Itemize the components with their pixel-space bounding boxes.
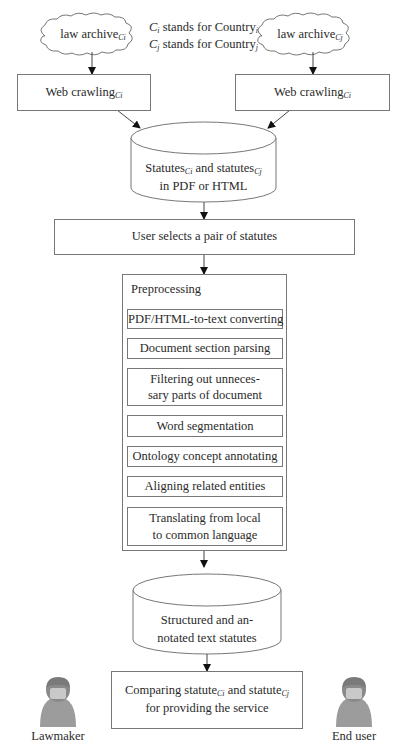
- step-pdf-html-to-text: PDF/HTML-to-text converting: [127, 309, 283, 329]
- step-label: Word segmentation: [128, 418, 282, 435]
- web-crawling-left-label: Web crawlingCi: [18, 84, 150, 104]
- end-user-label: End user: [324, 729, 384, 744]
- arrow-crawler-left: [117, 110, 140, 128]
- end-user-person-icon: [336, 677, 372, 727]
- step-label-line2: to common language: [128, 527, 282, 544]
- step-label: Aligning related entities: [128, 478, 282, 495]
- preprocessing-title: Preprocessing: [131, 281, 201, 298]
- step-label-line1: Translating from local: [128, 510, 282, 527]
- web-crawling-right-label: Web crawlingCi: [236, 84, 389, 104]
- compare-line2: for providing the service: [112, 700, 302, 717]
- user-selects-label: User selects a pair of statutes: [55, 228, 354, 245]
- step-label: PDF/HTML-to-text converting: [128, 311, 282, 328]
- arrow-crawler-right: [268, 110, 290, 128]
- step-label-line1: Filtering out unneces-: [128, 371, 282, 388]
- lawmaker-person-icon: [40, 677, 76, 727]
- legend-line-2: Cj stands for Countryj: [149, 36, 258, 56]
- step-ontology-annotating: Ontology concept annotating: [127, 446, 283, 467]
- step-label: Document section parsing: [128, 340, 282, 357]
- compare-statutes-box: Comparing statuteCi and statuteCj for pr…: [111, 671, 303, 729]
- compare-line1: Comparing statuteCi and statuteCj: [112, 682, 302, 702]
- step-section-parsing: Document section parsing: [127, 338, 283, 359]
- step-label-line2: sary parts of document: [128, 387, 282, 404]
- cloud-left-label: law archiveCi: [45, 26, 141, 46]
- lawmaker-label: Lawmaker: [28, 729, 88, 744]
- step-label: Ontology concept annotating: [128, 448, 282, 465]
- database-raw-line2: in PDF or HTML: [131, 178, 276, 195]
- step-filtering: Filtering out unneces- sary parts of doc…: [127, 368, 283, 406]
- step-aligning-entities: Aligning related entities: [127, 476, 283, 497]
- cloud-right-label: law archiveCj: [262, 26, 358, 46]
- database-structured-line2: notated text statutes: [133, 630, 281, 647]
- web-crawling-left-box: Web crawlingCi: [17, 74, 151, 111]
- database-structured-line1: Structured and an-: [133, 612, 281, 629]
- database-raw-line1: StatutesCi and statutesCj: [131, 160, 276, 180]
- web-crawling-right-box: Web crawlingCi: [235, 74, 390, 111]
- step-word-segmentation: Word segmentation: [127, 415, 283, 437]
- step-translating: Translating from local to common languag…: [127, 507, 283, 546]
- user-selects-box: User selects a pair of statutes: [54, 219, 355, 255]
